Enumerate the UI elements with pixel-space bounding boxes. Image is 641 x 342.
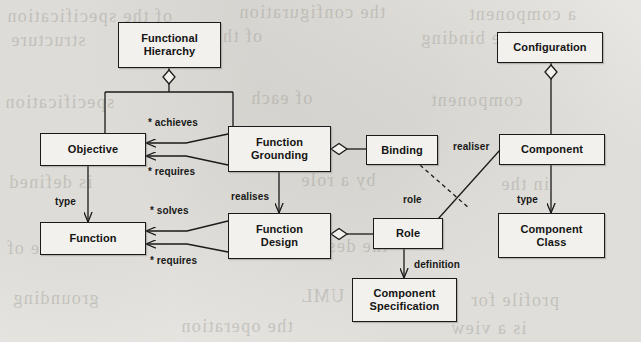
edge-label-requires-1: * requires (148, 166, 195, 177)
class-box-role[interactable]: Role (373, 218, 443, 249)
class-box-label: FunctionalHierarchy (138, 32, 201, 58)
class-box-label: FunctionGrounding (248, 136, 311, 162)
class-box-label: Binding (378, 144, 426, 157)
edge-requires-objective (146, 156, 228, 165)
edge-solves (146, 221, 228, 231)
class-box-label: ComponentSpecification (367, 287, 443, 313)
class-box-label: ComponentClass (517, 223, 585, 249)
edge-label-achieves: * achieves (148, 117, 198, 128)
edge-label-realiser: realiser (453, 141, 489, 152)
class-box-label: Role (393, 227, 423, 240)
edge-requires-function (146, 244, 228, 252)
edge-label-definition: definition (414, 259, 460, 270)
aggregation-diamond-configuration (545, 65, 557, 79)
edge-label-requires-2: * requires (150, 255, 197, 266)
edge-achieves (146, 134, 228, 143)
edge-binding-role-dependency (420, 165, 470, 209)
aggregation-diamond-function-grounding-binding (331, 144, 347, 155)
class-box-component[interactable]: Component (499, 134, 605, 165)
class-box-label: FunctionDesign (253, 223, 306, 249)
aggregation-diamond-functional-hierarchy (163, 70, 175, 84)
edge-label-role-label: role (403, 194, 422, 205)
class-box-label: Objective (65, 143, 121, 156)
class-box-label: Function (66, 232, 119, 245)
class-box-objective[interactable]: Objective (40, 133, 146, 166)
class-box-label: Component (518, 143, 586, 156)
edge-label-type-left: type (55, 196, 76, 207)
class-box-functional-hierarchy[interactable]: FunctionalHierarchy (118, 22, 221, 68)
class-box-label: Configuration (510, 41, 589, 54)
edge-label-realises: realises (231, 191, 269, 202)
class-box-configuration[interactable]: Configuration (497, 32, 603, 63)
aggregation-diamond-function-design-role (331, 229, 347, 240)
class-box-binding[interactable]: Binding (366, 135, 438, 165)
class-box-function-design[interactable]: FunctionDesign (228, 213, 331, 259)
class-box-component-class[interactable]: ComponentClass (498, 213, 605, 258)
class-box-component-specification[interactable]: ComponentSpecification (352, 278, 457, 322)
diagram-canvas: of the specificationthe configurationa c… (0, 0, 641, 342)
edge-label-type-right: type (517, 194, 538, 205)
edge-realiser (438, 150, 500, 219)
edge-label-solves: * solves (150, 205, 189, 216)
class-box-function-grounding[interactable]: FunctionGrounding (228, 126, 331, 172)
class-box-function[interactable]: Function (40, 222, 146, 255)
